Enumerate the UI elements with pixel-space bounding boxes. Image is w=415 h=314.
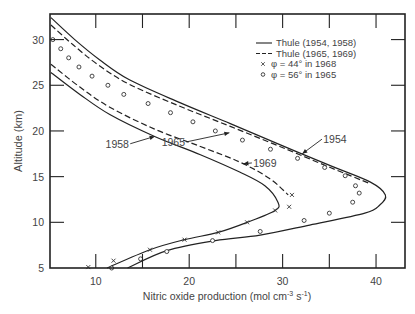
x-tick-label: 10 [90,275,102,287]
y-tick-label: 10 [32,216,44,228]
y-tick-label: 15 [32,171,44,183]
circle-marker [191,120,195,124]
y-tick-label: 30 [32,34,44,46]
cross-marker [273,208,277,212]
arrowhead-icon [224,132,229,136]
circle-marker [146,102,150,106]
circle-marker [169,111,173,115]
arrowhead-icon [302,149,307,154]
y-axis-label: Altitude (km) [12,110,24,172]
circle-marker [351,200,355,204]
circle-marker [240,138,244,142]
annotation-label: 1954 [323,133,347,145]
annotation-label: 1958 [106,138,130,150]
circle-marker [165,250,169,254]
circle-marker [90,74,94,78]
circle-marker [106,83,110,87]
circle-marker [357,191,361,195]
circle-marker [59,47,63,51]
y-tick-label: 20 [32,125,44,137]
legend-entry: φ = 44° in 1968 [271,58,336,69]
circle-marker [343,174,347,178]
legend-entry: Thule (1965, 1969) [276,48,356,59]
y-tick-label: 5 [38,262,44,274]
annotation-label: 1969 [253,157,277,169]
legend: Thule (1954, 1958)Thule (1965, 1969)φ = … [256,37,356,80]
circle-marker [268,147,272,151]
series-line-3 [51,64,288,195]
chart: 1954196519691958 1020304051015202530 Thu… [0,0,415,314]
circle-marker [327,211,331,215]
cross-marker [290,193,294,197]
x-axis-label: Nitric oxide production (mol cm-3 s-1) [143,290,311,302]
circle-marker [296,156,300,160]
circle-marker [353,184,357,188]
legend-entry: Thule (1954, 1958) [276,37,356,48]
circle-marker [77,65,81,69]
cross-marker [287,205,291,209]
y-tick-label: 25 [32,79,44,91]
x-tick-label: 40 [370,275,382,287]
circle-marker [211,239,215,243]
series-line-2 [51,72,279,268]
circle-marker [213,129,217,133]
circle-marker [67,56,71,60]
cross-marker [112,259,116,263]
x-tick-label: 20 [183,275,195,287]
annotations: 1954196519691958 [106,132,347,169]
x-tick-label: 30 [277,275,289,287]
annotation-label: 1965 [162,136,186,148]
arrowhead-icon [149,136,154,140]
legend-entry: φ = 56° in 1965 [271,69,336,80]
circle-marker [258,229,262,233]
circle-marker [122,92,126,96]
circle-marker [323,165,327,169]
circle-marker [302,218,306,222]
